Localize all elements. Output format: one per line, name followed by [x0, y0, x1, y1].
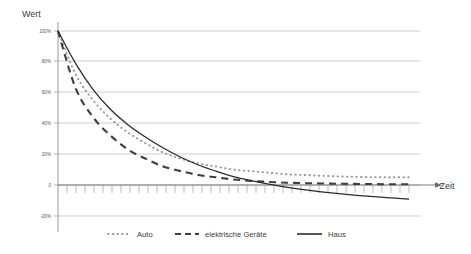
legend-label-elektrische-geraete: elektrische Geräte	[205, 230, 267, 239]
legend-item-haus[interactable]: Haus	[297, 230, 346, 239]
y-axis-ticks	[54, 31, 58, 216]
y-tick-label-minus20: -20%	[40, 214, 51, 219]
x-axis-title: Zeit	[439, 181, 455, 191]
series-paths	[58, 31, 409, 199]
legend-item-auto[interactable]: Auto	[108, 230, 153, 239]
legend-label-auto: Auto	[137, 230, 153, 239]
x-axis-ticks	[67, 185, 409, 193]
legend-item-elektrische-geraete[interactable]: elektrische Geräte	[175, 230, 267, 239]
x-axis	[58, 182, 442, 188]
y-axis-title: Wert	[22, 9, 41, 19]
y-tick-label-60: 60%	[42, 90, 51, 95]
y-tick-label-0: 0	[48, 183, 51, 188]
y-tick-label-80: 80%	[42, 59, 51, 64]
legend: Auto elektrische Geräte Haus	[108, 230, 346, 239]
series-line-auto	[58, 31, 409, 177]
chart-canvas: 100% 80% 60% 40% 20% 0 -20% Wert Zeit Au…	[0, 0, 471, 254]
y-tick-label-20: 20%	[42, 152, 51, 157]
y-tick-label-100: 100%	[39, 29, 51, 34]
series-line-elektrische-geraete	[58, 31, 409, 184]
series-line-haus	[58, 31, 409, 199]
depreciation-chart: 100% 80% 60% 40% 20% 0 -20% Wert Zeit Au…	[0, 0, 471, 254]
y-tick-label-40: 40%	[42, 121, 51, 126]
legend-label-haus: Haus	[328, 230, 346, 239]
